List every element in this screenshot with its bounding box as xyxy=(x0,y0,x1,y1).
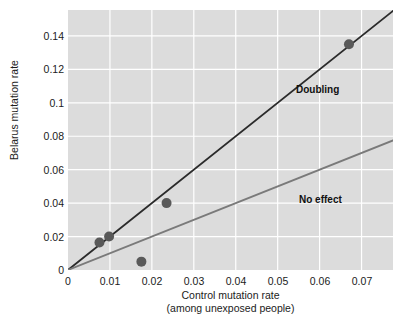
x-tick-label: 0.07 xyxy=(342,275,382,287)
y-axis-title: Belarus mutation rate xyxy=(8,20,20,200)
x-tick-label: 0.06 xyxy=(300,275,340,287)
annotation-doubling: Doubling xyxy=(296,84,339,95)
x-axis-title-line1: Control mutation rate xyxy=(68,289,393,302)
x-tick-label: 0.03 xyxy=(174,275,214,287)
x-tick-label: 0.02 xyxy=(132,275,172,287)
x-axis-title: Control mutation rate (among unexposed p… xyxy=(68,289,393,315)
x-axis-title-line2: (among unexposed people) xyxy=(68,302,393,315)
x-tick-label: 0.05 xyxy=(258,275,298,287)
y-tick-label: 0.02 xyxy=(0,231,64,243)
x-tick-label: 0.01 xyxy=(90,275,130,287)
annotation-no-effect: No effect xyxy=(299,194,342,205)
x-tick-label: 0.04 xyxy=(216,275,256,287)
plot-area xyxy=(68,10,393,270)
x-tick-label: 0 xyxy=(48,275,88,287)
data-layer xyxy=(68,10,393,270)
chart-container: 0 0.02 0.04 0.06 0.08 0.1 0.12 0.14 Bela… xyxy=(0,0,402,327)
